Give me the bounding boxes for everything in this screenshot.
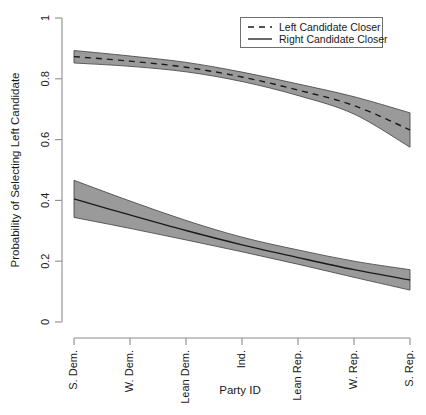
legend-label-left-candidate-closer: Left Candidate Closer (279, 21, 381, 33)
x-tick-label-ind: Ind. (235, 350, 247, 368)
x-tick-label-lean-dem: Lean Dem. (179, 350, 191, 404)
x-tick-label-lean-rep: Lean Rep. (291, 350, 303, 401)
legend-label-right-candidate-closer: Right Candidate Closer (279, 33, 388, 45)
chart-background (0, 0, 426, 415)
y-tick-label: 0 (39, 319, 51, 325)
y-tick-label: 0.2 (39, 254, 51, 269)
chart-container: 00.20.40.60.81 S. Dem.W. Dem.Lean Dem.In… (0, 0, 426, 415)
y-tick-label: 0.4 (39, 193, 51, 208)
chart-legend[interactable]: Left Candidate Closer Right Candidate Cl… (241, 18, 389, 48)
y-tick-label: 0.6 (39, 132, 51, 147)
y-axis-title: Probability of Selecting Left Candidate (9, 73, 21, 268)
x-axis-title: Party ID (219, 384, 261, 396)
y-tick-label: 1 (39, 15, 51, 21)
x-tick-label-w-rep: W. Rep. (347, 350, 359, 389)
x-tick-label-s-rep: S. Rep. (403, 350, 415, 387)
x-tick-label-s-dem: S. Dem. (67, 350, 79, 390)
probability-line-chart: 00.20.40.60.81 S. Dem.W. Dem.Lean Dem.In… (0, 0, 426, 415)
x-tick-label-w-dem: W. Dem. (123, 350, 135, 392)
y-tick-label: 0.8 (39, 71, 51, 86)
